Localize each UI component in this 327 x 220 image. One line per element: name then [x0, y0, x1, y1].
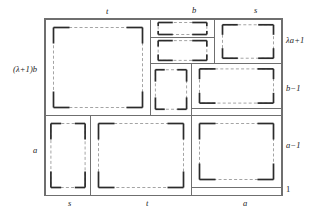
label-right-one: 1	[286, 185, 290, 194]
cell-s-top	[215, 20, 282, 64]
cell-one-right	[192, 188, 282, 196]
label-top-t: t	[106, 7, 108, 16]
cell-mid-left-inner-frame	[155, 70, 186, 110]
label-left-a: a	[33, 146, 37, 155]
figure-canvas	[0, 0, 327, 220]
label-bottom-s: s	[68, 199, 71, 208]
label-bottom-t: t	[146, 199, 148, 208]
cell-t-bottom-inner-frame	[99, 124, 184, 188]
cell-s-top-inner-frame	[223, 25, 274, 58]
cell-mid-left-outline	[151, 64, 192, 116]
cell-a-left-outline	[46, 116, 91, 196]
cell-t-by-lambda1b-inner-frame	[54, 28, 143, 108]
label-bottom-a: a	[243, 199, 247, 208]
cell-thin-strip-outline	[192, 109, 282, 116]
cell-s-top-outline	[215, 20, 282, 64]
cell-a-left-inner-frame	[51, 124, 85, 188]
cell-b-1-right-inner-frame	[200, 69, 274, 103]
cell-t-by-lambda1b	[46, 20, 151, 116]
cell-thin-strip	[192, 109, 282, 116]
cell-mid-left	[151, 64, 192, 116]
label-right-a-1: a−1	[286, 141, 301, 150]
label-top-b: b	[192, 6, 196, 15]
cell-b-1-right-outline	[192, 64, 282, 109]
outer-boundary	[45, 19, 283, 196]
dissection-figure: tbs(λ+1)baλa+1b−1a−11sta	[0, 0, 327, 220]
cell-one-right-outline	[192, 188, 282, 196]
cell-t-by-lambda1b-outline	[46, 20, 151, 116]
cell-a-1-right-inner-frame	[200, 124, 274, 180]
cell-t-bottom	[91, 116, 192, 196]
cell-b-mid	[151, 38, 215, 64]
cell-a-1-right-outline	[192, 116, 282, 188]
cell-b-top	[151, 20, 215, 38]
cell-b-top-inner-frame	[158, 23, 207, 35]
cell-a-left	[46, 116, 91, 196]
label-right-lambda-a1: λa+1	[286, 36, 304, 45]
cell-b-1-right	[192, 64, 282, 109]
label-right-b-1: b−1	[286, 84, 301, 93]
label-left-lambda1b: (λ+1)b	[13, 65, 37, 74]
cell-b-mid-inner-frame	[158, 41, 207, 61]
cell-t-bottom-outline	[91, 116, 192, 196]
label-top-s: s	[254, 6, 257, 15]
cell-a-1-right	[192, 116, 282, 188]
